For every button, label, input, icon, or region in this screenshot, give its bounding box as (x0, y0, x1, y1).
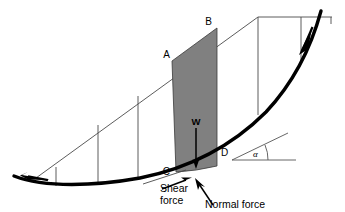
label-point-c: C (163, 166, 170, 177)
slope-stability-figure: A B C D W α Shear force Normal force (0, 0, 345, 212)
diagram-background (0, 0, 345, 212)
diagram-canvas: A B C D W α Shear force Normal force (0, 0, 345, 212)
label-shear-force-line2: force (160, 194, 184, 206)
label-shear-force-line1: Shear (160, 182, 189, 194)
label-point-a: A (163, 49, 170, 60)
label-point-d: D (221, 147, 228, 158)
label-normal-force: Normal force (205, 198, 265, 210)
label-weight: W (192, 116, 201, 127)
label-point-b: B (205, 16, 212, 27)
label-alpha: α (253, 149, 258, 159)
